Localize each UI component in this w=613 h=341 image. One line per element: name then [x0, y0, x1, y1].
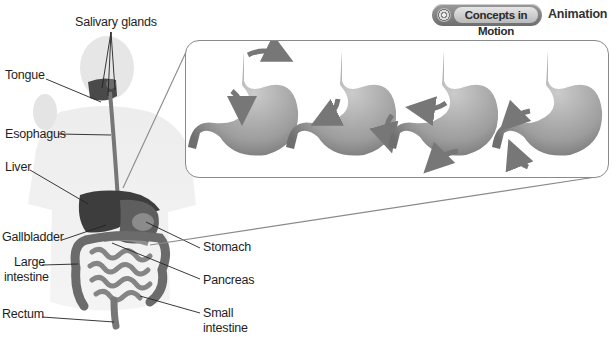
stomach-frame-2 — [286, 51, 396, 156]
label-small-intestine-line2: intestine — [203, 321, 248, 335]
label-rectum: Rectum — [2, 307, 44, 321]
label-pancreas: Pancreas — [203, 273, 254, 287]
label-gallbladder: Gallbladder — [2, 230, 64, 244]
concentric-circle-icon — [437, 8, 451, 22]
stomach-frame-3 — [388, 51, 498, 163]
label-esophagus: Esophagus — [5, 127, 66, 141]
label-large-intestine-line1: Large — [14, 255, 45, 269]
mouth-region — [88, 78, 117, 100]
stomach-frame-4 — [492, 51, 602, 167]
rectum-organ — [114, 300, 116, 326]
label-large-intestine-line2: intestine — [4, 270, 49, 284]
label-stomach: Stomach — [203, 240, 251, 254]
animation-caption: Animation — [548, 7, 607, 21]
label-tongue: Tongue — [5, 68, 45, 82]
stomach-frame-1 — [188, 51, 298, 156]
peristalsis-inset-box — [185, 40, 609, 178]
label-salivary-glands: Salivary glands — [75, 15, 157, 29]
concepts-in-motion-button[interactable]: Concepts in Motion — [432, 4, 542, 26]
badge-label: Concepts in Motion — [454, 7, 538, 23]
stomach-frames — [186, 41, 608, 177]
label-small-intestine-line1: Small — [203, 306, 233, 320]
label-liver: Liver — [5, 160, 31, 174]
